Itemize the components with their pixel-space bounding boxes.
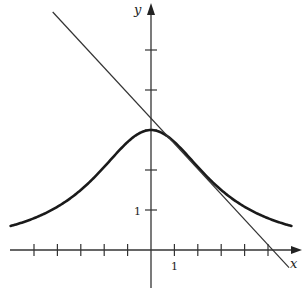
axes (10, 3, 302, 288)
graph: y x 1 1 (0, 0, 305, 290)
x-axis-arrow-icon (291, 246, 302, 254)
y-axis-arrow-icon (147, 3, 155, 15)
x-axis-label: x (290, 256, 298, 271)
x-tick-label-1: 1 (171, 260, 178, 273)
y-tick-label-1: 1 (134, 205, 141, 218)
y-axis-label: y (133, 2, 142, 17)
tangent-line (53, 12, 289, 268)
